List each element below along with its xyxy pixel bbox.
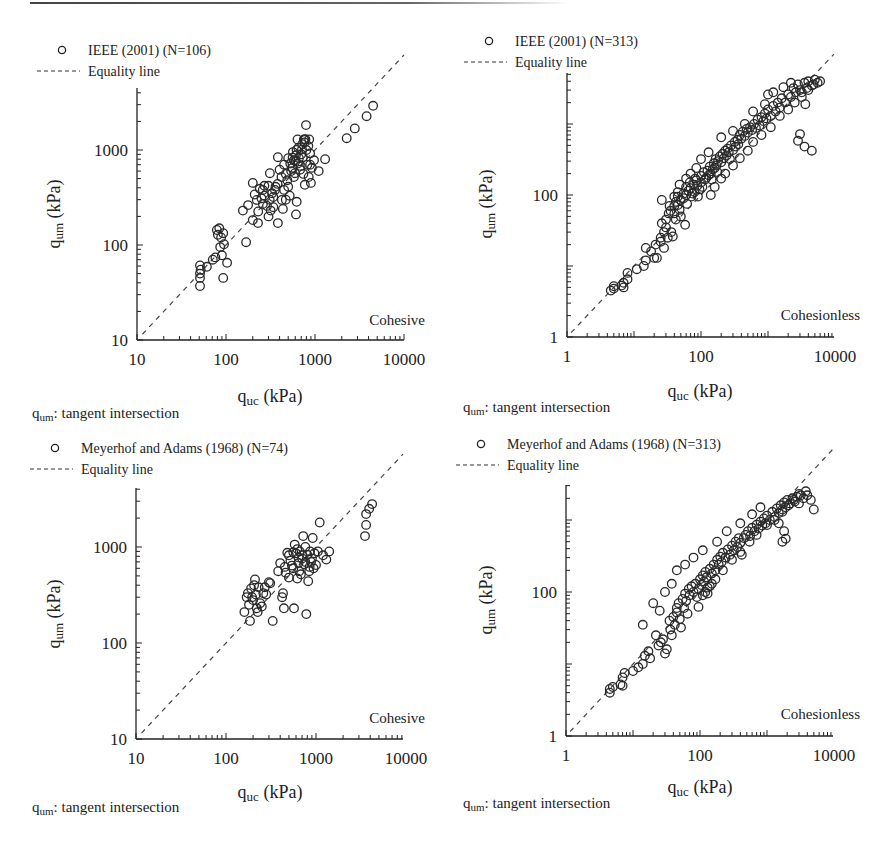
panel-soil-type-label: Cohesive	[369, 312, 425, 328]
x-tick-label: 1000	[298, 350, 332, 369]
data-point	[274, 153, 283, 162]
data-point	[302, 121, 311, 130]
legend: Meyerhof and Adams (1968) (N=313)Equalit…	[456, 437, 721, 473]
y-tick-label: 1	[549, 727, 558, 746]
data-point	[315, 518, 324, 527]
data-point	[307, 179, 316, 188]
y-axis-label: qum (kPa)	[44, 179, 66, 248]
data-point	[722, 527, 731, 536]
legend-equality-label: Equality line	[507, 458, 579, 473]
legend-marker-icon	[477, 440, 484, 447]
legend: IEEE (2001) (N=313)Equality line	[464, 34, 638, 70]
data-point	[274, 219, 283, 228]
data-point	[749, 107, 758, 116]
data-point	[361, 532, 370, 541]
data-point	[673, 566, 682, 575]
data-point	[351, 124, 360, 133]
panel-soil-type-label: Cohesionless	[781, 307, 860, 323]
data-point	[264, 212, 273, 221]
x-tick-label: 100	[213, 749, 239, 768]
figure-canvas: 10100100010000101001000IEEE (2001) (N=10…	[0, 0, 885, 853]
data-point	[242, 238, 251, 247]
equality-line	[141, 454, 403, 733]
data-point	[292, 198, 301, 207]
scatter-points	[607, 75, 825, 295]
data-point	[321, 155, 330, 164]
y-tick-label: 1000	[94, 141, 128, 160]
data-point	[279, 205, 288, 214]
data-point	[668, 580, 677, 589]
data-point	[810, 505, 819, 514]
data-point	[779, 83, 788, 92]
chart-panel-bottom-right: 1100100001100Meyerhof and Adams (1968) (…	[456, 437, 860, 813]
data-point	[681, 560, 690, 569]
footnote-definition: qum: tangent intersection	[32, 405, 180, 423]
footnote-definition: qum: tangent intersection	[32, 799, 180, 817]
x-axis-label: quc (kPa)	[668, 381, 733, 403]
data-point	[784, 105, 793, 114]
scatter-points	[196, 102, 378, 291]
data-point	[244, 201, 253, 210]
data-point	[649, 599, 658, 608]
data-point	[697, 155, 706, 164]
data-point	[707, 191, 716, 200]
data-point	[749, 138, 758, 147]
data-point	[757, 131, 766, 140]
data-point	[710, 183, 719, 192]
data-point	[266, 169, 275, 178]
data-point	[219, 274, 228, 283]
data-point	[640, 262, 649, 271]
panel-soil-type-label: Cohesionless	[781, 706, 860, 722]
data-point	[717, 133, 726, 142]
scatter-points	[240, 500, 376, 625]
y-tick-label: 1000	[93, 538, 127, 557]
chart-panel-top-left: 10100100010000101001000IEEE (2001) (N=10…	[32, 43, 425, 423]
data-point	[689, 553, 698, 562]
y-tick-label: 10	[110, 730, 127, 749]
x-axis-label: quc (kPa)	[238, 782, 303, 804]
legend-equality-label: Equality line	[515, 55, 587, 70]
legend-marker-icon	[58, 46, 65, 53]
y-tick-label: 100	[103, 236, 129, 255]
x-tick-label: 1	[563, 347, 572, 366]
x-tick-label: 10000	[814, 347, 857, 366]
y-tick-label: 10	[111, 331, 128, 350]
data-point	[801, 100, 810, 109]
y-axis-label: qum (kPa)	[476, 169, 498, 238]
data-point	[362, 521, 371, 530]
x-tick-label: 100	[687, 746, 713, 765]
data-point	[704, 148, 713, 157]
legend-series-label: Meyerhof and Adams (1968) (N=313)	[507, 437, 721, 453]
data-point	[808, 146, 817, 155]
chart-panel-top-right: 1100100001100IEEE (2001) (N=313)Equality…	[463, 34, 860, 417]
chart-panel-bottom-left: 10100100010000101001000Meyerhof and Adam…	[30, 441, 427, 817]
data-point	[729, 127, 738, 136]
data-point	[304, 577, 313, 586]
equality-line	[142, 55, 404, 334]
data-point	[756, 503, 765, 512]
y-tick-label: 100	[102, 634, 128, 653]
data-point	[290, 604, 299, 613]
x-tick-label: 10000	[383, 350, 426, 369]
data-point	[254, 207, 263, 216]
data-point	[699, 546, 708, 555]
legend-marker-icon	[485, 37, 492, 44]
data-point	[308, 534, 317, 543]
data-point	[302, 610, 311, 619]
data-point	[642, 256, 651, 265]
x-tick-label: 10000	[813, 746, 856, 765]
legend-series-label: IEEE (2001) (N=313)	[515, 34, 638, 50]
data-point	[767, 123, 776, 132]
data-point	[292, 210, 301, 219]
x-tick-label: 100	[213, 350, 239, 369]
data-point	[299, 532, 308, 541]
footnote-definition: qum: tangent intersection	[463, 399, 611, 417]
scatter-points	[606, 487, 819, 697]
data-point	[314, 167, 323, 176]
y-tick-label: 100	[533, 186, 559, 205]
data-point	[736, 154, 745, 163]
data-point	[681, 221, 690, 230]
data-point	[362, 112, 371, 121]
data-point	[342, 134, 351, 143]
data-point	[196, 282, 205, 291]
